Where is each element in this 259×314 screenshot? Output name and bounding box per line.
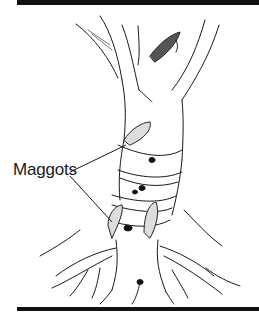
maggots-label: Maggots	[13, 160, 77, 180]
leader-line-lower	[70, 176, 112, 222]
maggot-3	[144, 202, 158, 238]
maggot-2	[108, 205, 122, 238]
branch-left-outer	[76, 24, 118, 78]
stem-root-illustration	[0, 0, 259, 314]
trunk-right-edge	[182, 100, 183, 160]
trunk-left-edge	[122, 80, 125, 140]
maggot-1	[124, 122, 150, 145]
leader-line-upper	[70, 145, 126, 172]
bottom-border-bar	[17, 307, 259, 311]
